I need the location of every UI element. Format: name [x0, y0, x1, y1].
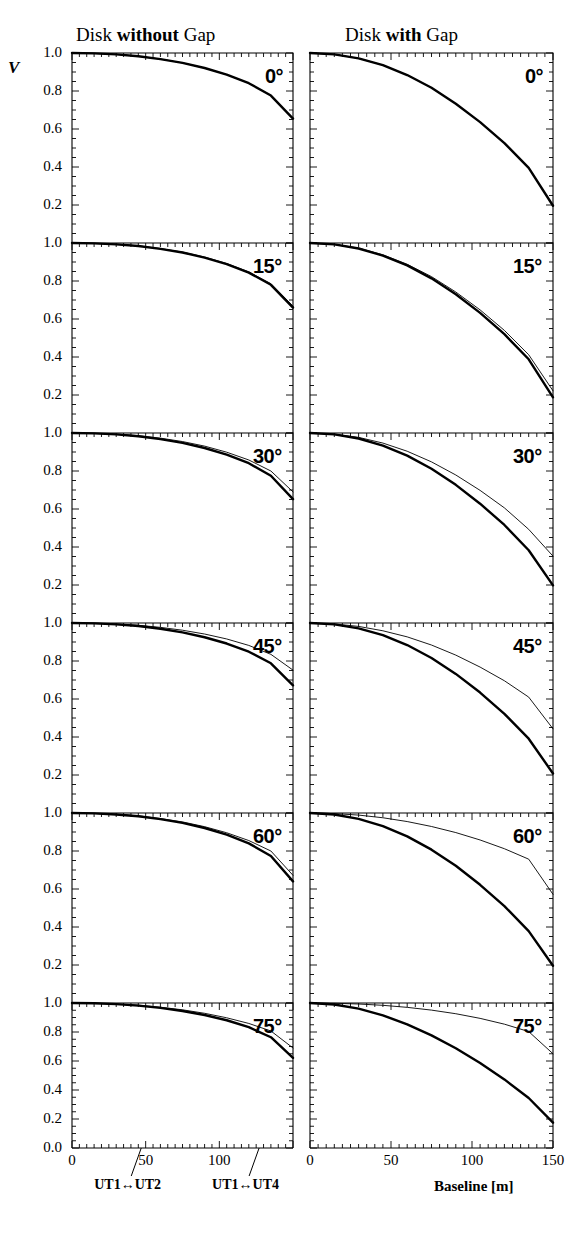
- y-tick-label: 0.2: [26, 386, 62, 403]
- y-tick-label: 1.0: [26, 44, 62, 61]
- y-tick-label: 0.4: [26, 538, 62, 555]
- panel-label-left: 45°: [253, 635, 282, 658]
- y-tick-label: 1.0: [26, 234, 62, 251]
- y-tick-label: 0.6: [26, 120, 62, 137]
- column-title-left: Disk without Gap: [76, 24, 215, 46]
- panel-label-left: 0°: [265, 65, 283, 88]
- panel-label-left: 15°: [253, 255, 282, 278]
- x-tick-label-right: 100: [452, 1152, 492, 1169]
- y-tick-label: 0.6: [26, 1052, 62, 1069]
- panel-label-left: 30°: [253, 445, 282, 468]
- y-tick-label: 1.0: [26, 994, 62, 1011]
- panel-label-right: 75°: [513, 1015, 542, 1038]
- y-tick-label: 1.0: [26, 804, 62, 821]
- title-left-emph: without: [117, 24, 179, 45]
- figure-canvas: [0, 0, 583, 1233]
- x-tick-label-right: 150: [533, 1152, 573, 1169]
- title-right-emph: with: [386, 24, 422, 45]
- column-title-right: Disk with Gap: [345, 24, 458, 46]
- annotation-label: UT1↔UT2: [94, 1177, 161, 1193]
- panel-label-right: 45°: [513, 635, 542, 658]
- figure-background: [0, 0, 583, 1233]
- y-tick-label: 0.4: [26, 348, 62, 365]
- title-left-prefix: Disk: [76, 24, 117, 45]
- title-right-suffix: Gap: [422, 24, 458, 45]
- y-axis-label: V: [8, 58, 19, 78]
- y-tick-label: 0.2: [26, 196, 62, 213]
- y-tick-label: 0.8: [26, 462, 62, 479]
- y-tick-label: 0.8: [26, 652, 62, 669]
- title-right-prefix: Disk: [345, 24, 386, 45]
- y-tick-label: 0.8: [26, 1023, 62, 1040]
- y-tick-label: 0.4: [26, 728, 62, 745]
- title-left-suffix: Gap: [179, 24, 215, 45]
- y-tick-label: 0.8: [26, 842, 62, 859]
- x-tick-label-right: 0: [290, 1152, 330, 1169]
- y-tick-label: 0.6: [26, 880, 62, 897]
- y-tick-label: 0.8: [26, 272, 62, 289]
- y-tick-label: 1.0: [26, 614, 62, 631]
- y-tick-label: 0.6: [26, 310, 62, 327]
- panel-label-right: 30°: [513, 445, 542, 468]
- panel-label-right: 60°: [513, 825, 542, 848]
- y-tick-label: 0.2: [26, 576, 62, 593]
- x-axis-label: Baseline [m]: [434, 1178, 514, 1195]
- y-tick-label: 0.6: [26, 500, 62, 517]
- x-tick-label-left: 100: [199, 1152, 239, 1169]
- y-tick-label: 0.4: [26, 1081, 62, 1098]
- x-tick-label-right: 50: [371, 1152, 411, 1169]
- x-tick-label-left: 0: [52, 1152, 92, 1169]
- y-tick-label: 0.8: [26, 82, 62, 99]
- panel-label-left: 75°: [253, 1015, 282, 1038]
- panel-label-left: 60°: [253, 825, 282, 848]
- y-tick-label: 1.0: [26, 424, 62, 441]
- y-tick-label: 0.2: [26, 766, 62, 783]
- y-tick-label: 0.4: [26, 918, 62, 935]
- y-tick-label: 0.4: [26, 158, 62, 175]
- panel-label-right: 0°: [525, 65, 543, 88]
- y-tick-label: 0.2: [26, 1110, 62, 1127]
- y-tick-label: 0.2: [26, 956, 62, 973]
- y-tick-label: 0.6: [26, 690, 62, 707]
- x-tick-label-left: 50: [126, 1152, 166, 1169]
- annotation-label: UT1↔UT4: [212, 1177, 279, 1193]
- panel-label-right: 15°: [513, 255, 542, 278]
